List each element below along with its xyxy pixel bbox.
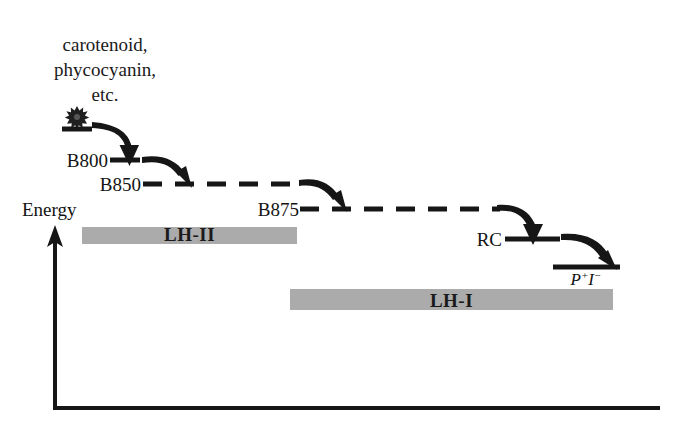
donor-line-1: carotenoid, xyxy=(63,34,148,55)
product-symbol-p: P xyxy=(570,270,581,289)
level-label-b800: B800 xyxy=(67,150,108,171)
level-label-rc: RC xyxy=(477,229,502,250)
level-label-b850: B850 xyxy=(100,174,141,195)
donor-line-2: phycocyanin, xyxy=(54,59,156,80)
complex-label-lh2: LH-II xyxy=(164,224,215,245)
diagram-canvas: Energy carotenoid, phycocyanin, etc. B80… xyxy=(0,0,674,438)
product-charge-minus: − xyxy=(594,269,601,281)
starburst-photon-icon xyxy=(65,106,89,129)
donor-pigments-text: carotenoid, phycocyanin, etc. xyxy=(54,34,156,105)
transfer-arrows-group xyxy=(92,122,617,270)
product-charge-plus: + xyxy=(581,269,588,281)
energy-axis-label: Energy xyxy=(22,199,77,220)
product-label: P+I− xyxy=(570,269,602,289)
complex-label-lh1: LH-I xyxy=(430,290,473,311)
energy-transfer-diagram: Energy carotenoid, phycocyanin, etc. B80… xyxy=(0,0,674,438)
donor-line-3: etc. xyxy=(92,84,119,105)
level-label-b875: B875 xyxy=(258,199,299,220)
